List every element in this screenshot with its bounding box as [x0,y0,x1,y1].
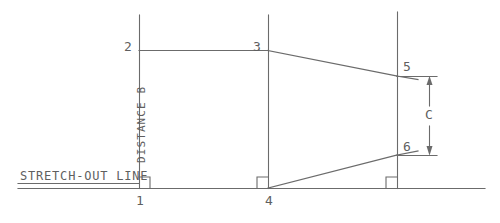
right-angle-marker-at-4 [257,177,268,188]
right-angle-marker-at-right-base [386,177,397,188]
dimension-arrow-up-icon [427,76,433,85]
segment-4-to-6 [268,155,397,188]
segment-3-to-5 [268,51,397,77]
dimension-arrow-down-icon [427,146,433,156]
point-label-5: 5 [403,60,411,73]
point-label-6: 6 [403,140,411,153]
point-label-2: 2 [124,40,132,53]
point-label-4: 4 [265,194,273,207]
point-label-1: 1 [136,194,144,207]
stretch-out-line-label: STRETCH-OUT LINE [20,170,148,182]
distance-b-label: DISTANCE B [136,86,147,163]
point-label-3: 3 [253,40,261,53]
diagram-canvas: 2 3 5 6 1 4 C DISTANCE B STRETCH-OUT LIN… [0,0,500,223]
dimension-label-c: C [425,108,433,121]
